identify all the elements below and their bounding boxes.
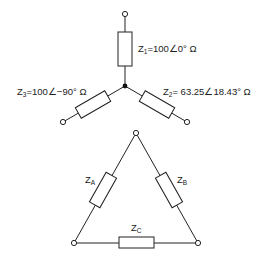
delta-top-terminal: [133, 130, 138, 135]
z1-terminal: [122, 11, 127, 16]
za-resistor: [89, 172, 116, 208]
zb-branch: [136, 133, 198, 243]
z1-resistor: [118, 32, 132, 66]
zc-label: ZC: [131, 222, 142, 234]
za-branch: [74, 133, 136, 243]
z2-label: Z2= 63.25∠18.43° Ω: [163, 86, 251, 98]
star-center-node: [123, 84, 128, 89]
star-network: Z1=100∠0° Ω Z3=100∠−90° Ω Z2= 63.25∠18.4…: [17, 11, 251, 124]
delta-left-terminal: [71, 240, 76, 245]
z2-terminal: [184, 119, 189, 124]
zb-label: ZB: [177, 174, 187, 186]
zc-branch: [74, 237, 198, 248]
z1-label: Z1=100∠0° Ω: [138, 43, 197, 55]
zc-resistor: [119, 237, 154, 248]
z3-terminal: [60, 119, 65, 124]
circuit-diagram: Z1=100∠0° Ω Z3=100∠−90° Ω Z2= 63.25∠18.4…: [0, 0, 260, 262]
za-label: ZA: [85, 174, 96, 186]
z1-branch: [118, 11, 132, 86]
z3-label: Z3=100∠−90° Ω: [17, 86, 87, 98]
delta-network: ZA ZB ZC: [71, 130, 200, 248]
delta-right-terminal: [195, 240, 200, 245]
